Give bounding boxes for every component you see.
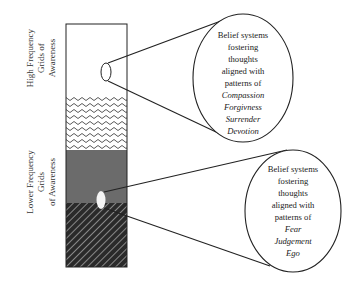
low-bubble-line-1: Belief systems <box>268 164 319 174</box>
gray-band <box>66 150 127 203</box>
wavy-band <box>66 96 127 150</box>
low-label-line-2: Grids <box>36 172 46 192</box>
high-focus-ellipse <box>101 63 111 81</box>
awareness-column <box>66 24 127 267</box>
high-bubble-line-4: aligned with <box>222 66 265 76</box>
high-label-line-2: Grids of <box>36 43 46 73</box>
low-bubble-line-4: aligned with <box>272 200 315 210</box>
low-bubble-line-5: patterns of <box>275 212 312 222</box>
high-bubble-line-1: Belief systems <box>218 30 269 40</box>
low-focus-ellipse <box>97 191 106 209</box>
lower-frequency-label: Lower Frequency Grids of Awareness <box>25 150 57 214</box>
high-bubble-quality-4: Devotion <box>226 126 259 136</box>
high-bubble-line-2: fostering <box>228 42 259 52</box>
high-label-line-1: High Frequency <box>25 28 35 87</box>
high-frequency-label: High Frequency Grids of Awareness <box>25 28 57 87</box>
belief-systems-diagram: High Frequency Grids of Awareness Lower … <box>0 0 356 287</box>
low-belief-bubble: Belief systems fostering thoughts aligne… <box>245 150 341 272</box>
low-bubble-quality-3: Ego <box>285 248 301 258</box>
high-bubble-line-5: patterns of <box>225 78 262 88</box>
low-label-line-1: Lower Frequency <box>25 150 35 214</box>
low-bubble-quality-1: Fear <box>284 224 302 234</box>
high-label-line-3: Awareness <box>47 38 57 77</box>
low-bubble-quality-2: Judgement <box>274 236 312 246</box>
low-label-line-3: of Awareness <box>47 158 57 206</box>
low-bubble-line-3: thoughts <box>278 188 308 198</box>
high-bubble-quality-3: Surrender <box>226 114 261 124</box>
high-belief-bubble: Belief systems fostering thoughts aligne… <box>193 14 293 142</box>
high-bubble-quality-2: Forgivness <box>223 102 263 112</box>
low-bubble-line-2: fostering <box>278 176 309 186</box>
high-bubble-line-3: thoughts <box>228 54 258 64</box>
high-bubble-quality-1: Compassion <box>222 90 265 100</box>
